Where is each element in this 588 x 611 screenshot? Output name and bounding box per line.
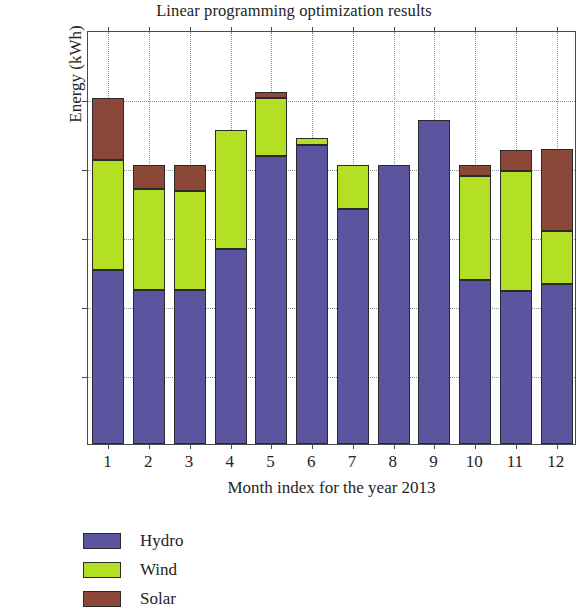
bar-segment-solar[interactable] xyxy=(255,92,287,98)
x-axis-tick-top xyxy=(149,27,150,32)
x-axis-tick-label: 9 xyxy=(429,452,438,472)
chart-title: Linear programming optimization results xyxy=(0,1,588,21)
x-axis-tick xyxy=(271,444,272,449)
x-axis-tick-top xyxy=(231,27,232,32)
x-axis-tick-top xyxy=(108,27,109,32)
x-axis-tick xyxy=(557,444,558,449)
bar-stack[interactable] xyxy=(133,30,165,444)
bar-segment-wind[interactable] xyxy=(541,231,573,283)
bar-stack[interactable] xyxy=(500,30,532,444)
x-axis-tick-top xyxy=(394,27,395,32)
x-axis-tick-top xyxy=(190,27,191,32)
bar-segment-hydro[interactable] xyxy=(418,120,450,444)
bar-stack[interactable] xyxy=(541,30,573,444)
x-axis-tick xyxy=(434,444,435,449)
bar-segment-wind[interactable] xyxy=(337,165,369,210)
bar-segment-hydro[interactable] xyxy=(255,156,287,444)
bar-stack[interactable] xyxy=(174,30,206,444)
x-axis-tick-top xyxy=(312,27,313,32)
x-axis-tick-label: 12 xyxy=(547,452,564,472)
legend-swatch-solar xyxy=(83,591,121,607)
legend-label-hydro: Hydro xyxy=(140,531,183,551)
legend-item-hydro[interactable]: Hydro xyxy=(83,526,343,555)
bar-segment-wind[interactable] xyxy=(133,189,165,290)
y-axis-label: Energy (kWh) xyxy=(66,0,86,164)
bar-stack[interactable] xyxy=(215,30,247,444)
bar-segment-hydro[interactable] xyxy=(215,249,247,444)
x-axis-tick xyxy=(394,444,395,449)
chart-legend: HydroWindSolar xyxy=(83,526,343,611)
bar-stack[interactable] xyxy=(459,30,491,444)
bar-stack[interactable] xyxy=(255,30,287,444)
legend-swatch-wind xyxy=(83,562,121,578)
bar-segment-solar[interactable] xyxy=(174,165,206,191)
x-axis-tick xyxy=(149,444,150,449)
bar-segment-solar[interactable] xyxy=(92,98,124,160)
legend-label-solar: Solar xyxy=(140,589,176,609)
x-axis-tick-top xyxy=(271,27,272,32)
x-axis-tick xyxy=(353,444,354,449)
legend-item-wind[interactable]: Wind xyxy=(83,555,343,584)
x-axis-tick-label: 5 xyxy=(266,452,275,472)
bar-segment-hydro[interactable] xyxy=(541,284,573,444)
x-axis-tick-label: 10 xyxy=(466,452,483,472)
bar-segment-hydro[interactable] xyxy=(174,290,206,444)
x-axis-tick-top xyxy=(353,27,354,32)
x-axis-tick-label: 7 xyxy=(348,452,357,472)
bar-segment-wind[interactable] xyxy=(174,191,206,290)
bar-segment-wind[interactable] xyxy=(459,176,491,280)
bar-segment-hydro[interactable] xyxy=(133,290,165,444)
y-axis-tick xyxy=(82,170,88,171)
x-axis-tick-label: 2 xyxy=(144,452,153,472)
chart-figure: Linear programming optimization results … xyxy=(0,0,588,611)
bar-segment-wind[interactable] xyxy=(255,98,287,155)
x-axis-tick-label: 8 xyxy=(388,452,397,472)
y-axis-tick xyxy=(82,377,88,378)
bar-segment-wind[interactable] xyxy=(215,130,247,249)
x-axis-tick xyxy=(190,444,191,449)
plot-area: Energy (kWh) xyxy=(87,31,576,445)
x-axis-tick xyxy=(516,444,517,449)
bar-segment-hydro[interactable] xyxy=(459,280,491,444)
x-axis-tick xyxy=(475,444,476,449)
x-axis-tick xyxy=(231,444,232,449)
bar-stack[interactable] xyxy=(92,30,124,444)
legend-label-wind: Wind xyxy=(140,560,177,580)
bar-segment-solar[interactable] xyxy=(541,149,573,231)
bar-segment-solar[interactable] xyxy=(133,165,165,190)
x-axis-tick-label: 4 xyxy=(225,452,234,472)
bar-segment-wind[interactable] xyxy=(296,138,328,145)
x-axis-tick-label: 11 xyxy=(507,452,523,472)
bar-segment-solar[interactable] xyxy=(459,165,491,177)
legend-swatch-hydro xyxy=(83,533,121,549)
y-axis-tick xyxy=(82,308,88,309)
x-axis-tick-top xyxy=(434,27,435,32)
bars-layer xyxy=(88,32,575,444)
bar-stack[interactable] xyxy=(296,30,328,444)
legend-item-solar[interactable]: Solar xyxy=(83,584,343,611)
x-axis-label: Month index for the year 2013 xyxy=(87,478,576,498)
x-axis-tick-label: 3 xyxy=(185,452,194,472)
x-axis-tick xyxy=(108,444,109,449)
x-axis-tick-top xyxy=(516,27,517,32)
bar-segment-hydro[interactable] xyxy=(500,291,532,444)
x-axis-tick-top xyxy=(557,27,558,32)
bar-segment-wind[interactable] xyxy=(500,171,532,291)
bar-stack[interactable] xyxy=(378,30,410,444)
bar-segment-hydro[interactable] xyxy=(92,270,124,444)
bar-segment-hydro[interactable] xyxy=(337,209,369,444)
y-axis-tick xyxy=(82,239,88,240)
bar-segment-hydro[interactable] xyxy=(378,165,410,444)
bar-stack[interactable] xyxy=(337,30,369,444)
bar-stack[interactable] xyxy=(418,30,450,444)
bar-segment-hydro[interactable] xyxy=(296,145,328,444)
bar-segment-solar[interactable] xyxy=(500,150,532,171)
x-axis-tick xyxy=(312,444,313,449)
x-axis-tick-label: 1 xyxy=(103,452,112,472)
bar-segment-wind[interactable] xyxy=(92,160,124,270)
x-axis-tick-top xyxy=(475,27,476,32)
x-axis-tick-label: 6 xyxy=(307,452,316,472)
